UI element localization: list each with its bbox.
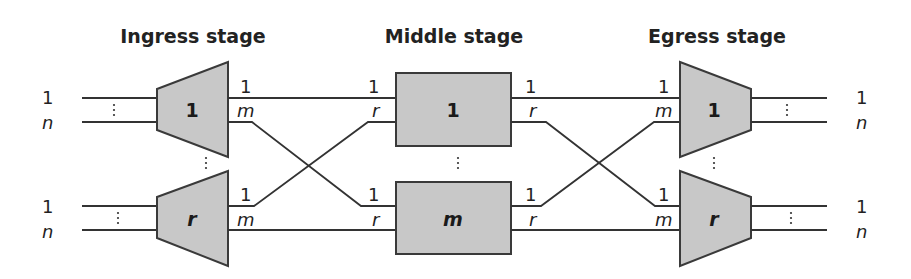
egress-switch-1-label: 1 — [707, 99, 720, 121]
ingress-r-input-last-label: n — [42, 221, 53, 242]
ingress-r-output-last-label: m — [237, 209, 255, 230]
middle-1-input-first-label: 1 — [368, 76, 379, 97]
middle-stage: 1 m 1 r 1 r 1 r 1 r — [368, 73, 538, 254]
egress-stage: 1 m 1 m 1 r 1 n 1 n — [655, 62, 867, 266]
egress-1-output-ellipsis-icon — [786, 104, 788, 116]
ingress-switch-r-label: r — [187, 208, 198, 230]
egress-1-output-first-label: 1 — [856, 87, 867, 108]
ingress-1-output-last-label: m — [237, 100, 255, 121]
ingress-r-output-first-label: 1 — [240, 184, 251, 205]
middle-switch-1-label: 1 — [446, 99, 459, 121]
middle-1-output-first-label: 1 — [525, 76, 536, 97]
middle-switch-m-label: m — [443, 208, 463, 230]
ingress-1-input-ellipsis-icon — [113, 104, 115, 116]
egress-r-output-first-label: 1 — [856, 196, 867, 217]
middle-m-input-last-label: r — [372, 209, 381, 230]
egress-switch-r-label: r — [709, 208, 720, 230]
middle-blocks-ellipsis-icon — [457, 157, 459, 169]
ingress-1-input-first-label: 1 — [42, 87, 53, 108]
ingress-r-input-first-label: 1 — [42, 196, 53, 217]
ingress-stage-title: Ingress stage — [120, 25, 265, 47]
middle-m-output-first-label: 1 — [525, 184, 536, 205]
clos-network-diagram: Ingress stage Middle stage Egress stage … — [0, 0, 911, 279]
egress-1-output-last-label: n — [856, 112, 867, 133]
middle-m-output-last-label: r — [529, 209, 538, 230]
egress-blocks-ellipsis-icon — [713, 157, 715, 169]
ingress-1-input-last-label: n — [42, 112, 53, 133]
egress-stage-title: Egress stage — [648, 25, 786, 47]
middle-stage-title: Middle stage — [385, 25, 523, 47]
egress-r-input-last-label: m — [655, 209, 673, 230]
ingress-blocks-ellipsis-icon — [205, 157, 207, 169]
ingress-switch-1-label: 1 — [185, 99, 198, 121]
egress-1-input-last-label: m — [655, 100, 673, 121]
middle-1-input-last-label: r — [372, 100, 381, 121]
egress-r-output-last-label: n — [856, 221, 867, 242]
egress-r-output-ellipsis-icon — [790, 212, 792, 224]
ingress-r-input-ellipsis-icon — [117, 212, 119, 224]
egress-1-input-first-label: 1 — [658, 76, 669, 97]
ingress-1-output-first-label: 1 — [240, 76, 251, 97]
middle-1-output-last-label: r — [529, 100, 538, 121]
ingress-stage: 1 n 1 1 n r 1 m 1 m — [42, 62, 255, 266]
egress-r-input-first-label: 1 — [658, 184, 669, 205]
middle-m-input-first-label: 1 — [368, 184, 379, 205]
